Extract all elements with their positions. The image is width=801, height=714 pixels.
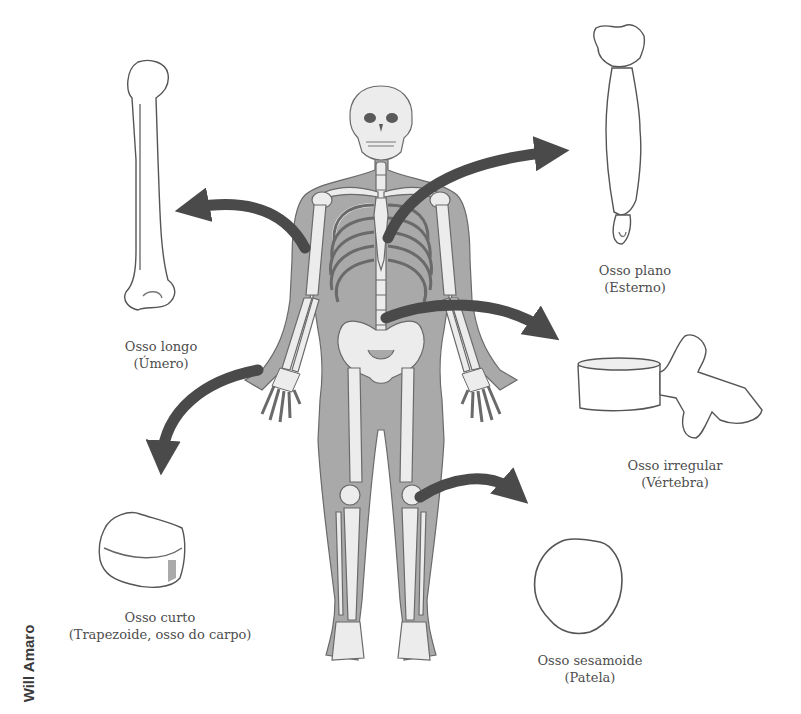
- label-flat-bone: Osso plano (Esterno): [570, 262, 700, 296]
- label-sesamoid-bone-name: Osso sesamoide: [515, 652, 665, 669]
- label-sesamoid-bone-example: (Patela): [515, 669, 665, 686]
- illustrator-credit: Will Amaro: [20, 624, 37, 704]
- label-short-bone-example: (Trapezoide, osso do carpo): [40, 626, 280, 643]
- arrow-to-long-bone: [192, 205, 305, 248]
- vertebra-illustration: [578, 335, 762, 438]
- label-long-bone-name: Osso longo: [101, 338, 221, 355]
- label-irregular-bone-example: (Vértebra): [600, 474, 750, 491]
- skull: [350, 86, 412, 160]
- label-flat-bone-example: (Esterno): [570, 279, 700, 296]
- label-irregular-bone-name: Osso irregular: [600, 457, 750, 474]
- label-short-bone: Osso curto (Trapezoide, osso do carpo): [40, 609, 280, 643]
- bone-types-diagram: Osso longo (Úmero) Osso plano (Esterno) …: [0, 0, 801, 714]
- label-short-bone-name: Osso curto: [40, 609, 280, 626]
- label-long-bone-example: (Úmero): [101, 355, 221, 372]
- sternum-illustration: [594, 25, 645, 244]
- humerus-illustration: [125, 61, 175, 311]
- trapezoid-illustration: [99, 513, 185, 588]
- patella-left: [340, 485, 360, 505]
- patella-illustration: [535, 539, 622, 634]
- label-flat-bone-name: Osso plano: [570, 262, 700, 279]
- label-long-bone: Osso longo (Úmero): [101, 338, 221, 372]
- label-sesamoid-bone: Osso sesamoide (Patela): [515, 652, 665, 686]
- label-irregular-bone: Osso irregular (Vértebra): [600, 457, 750, 491]
- arrow-to-short-bone: [162, 370, 258, 458]
